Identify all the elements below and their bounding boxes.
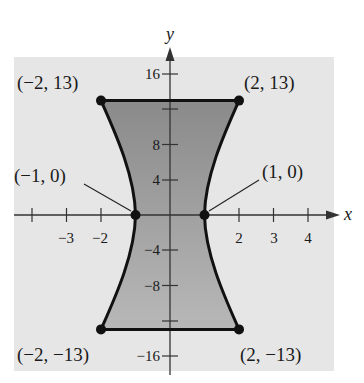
- point-label: (−2, −13): [17, 344, 89, 366]
- point-label: (−2, 13): [17, 72, 78, 94]
- y-tick-label: −16: [137, 348, 161, 364]
- y-tick-label: 16: [145, 66, 161, 82]
- point-marker: [200, 210, 210, 220]
- point-marker: [234, 324, 244, 334]
- point-label: (2, 13): [244, 72, 295, 94]
- point-marker: [96, 96, 106, 106]
- y-axis-arrow-icon: [166, 47, 175, 61]
- point-marker: [234, 96, 244, 106]
- x-axis-label: x: [343, 204, 352, 224]
- point-label: (2, −13): [240, 344, 301, 366]
- x-tick-label: 4: [304, 230, 312, 246]
- x-tick-label: 3: [270, 230, 278, 246]
- y-axis-label: y: [164, 24, 174, 44]
- point-label: (−1, 0): [14, 165, 66, 187]
- point-marker: [131, 210, 141, 220]
- x-tick-label: 2: [235, 230, 243, 246]
- y-tick-label: −8: [144, 278, 160, 294]
- y-tick-label: 4: [153, 172, 161, 188]
- point-marker: [96, 324, 106, 334]
- point-label: (1, 0): [262, 161, 303, 183]
- x-tick-label: −3: [58, 230, 74, 246]
- y-tick-label: −4: [144, 242, 160, 258]
- x-tick-label: −2: [92, 230, 108, 246]
- graph-figure: −3 −2 2 3 4 x 16 8 4 −4 −8 −16 y (−2, 13…: [0, 0, 364, 383]
- y-tick-label: 8: [153, 137, 161, 153]
